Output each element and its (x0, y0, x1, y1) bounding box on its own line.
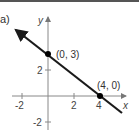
y-tick-label: 2 (37, 65, 43, 76)
graph-line (16, 30, 122, 113)
x-tick-label: 4 (96, 100, 102, 111)
graph: -2 2 4 2 -2 x y (0, 3) (4, 0) (0, 0, 139, 135)
point-4-0 (97, 93, 103, 99)
point-label: (4, 0) (97, 80, 120, 91)
y-axis-label: y (37, 15, 44, 26)
x-tick-label: 2 (71, 100, 77, 111)
x-tick-label: -2 (15, 100, 24, 111)
point-label: (0, 3) (56, 49, 79, 60)
y-tick-label: -2 (33, 117, 42, 128)
x-axis-label: x (122, 100, 129, 111)
point-0-3 (45, 51, 51, 57)
